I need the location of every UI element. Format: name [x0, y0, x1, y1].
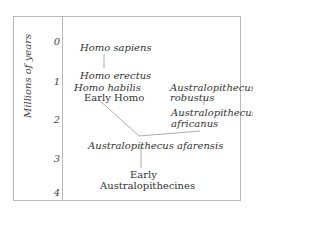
line-early-homo-afarensis	[98, 99, 139, 136]
label-early-homo: Early Homo	[84, 92, 144, 103]
line-afarensis-africanus	[139, 131, 200, 136]
label-homo-sapiens: Homo sapiens	[80, 42, 152, 53]
label-a-afarensis: Australopithecus afarensis	[88, 140, 223, 151]
label-a-africanus-species: africanus	[171, 118, 218, 129]
label-a-africanus-genus: Australopithecus	[171, 107, 253, 118]
label-early-austr-1: Early	[130, 169, 157, 180]
label-early-austr-2: Australopithecines	[100, 180, 195, 191]
label-a-robustus-species: robustus	[170, 92, 214, 103]
label-homo-erectus: Homo erectus	[80, 70, 151, 81]
